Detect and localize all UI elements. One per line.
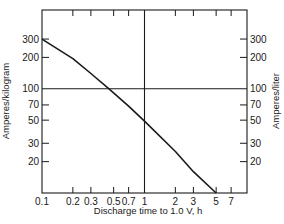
y-tick-label-right: 30 xyxy=(250,138,262,149)
y-tick-label-left: 200 xyxy=(22,52,39,63)
x-tick-label: 5 xyxy=(213,196,219,207)
left-y-axis-title: Amperes/kilogram xyxy=(0,63,11,140)
y-tick-label-right: 70 xyxy=(250,99,262,110)
series-line xyxy=(42,39,216,193)
x-tick-label: 7 xyxy=(228,196,234,207)
x-axis-title: Discharge time to 1.0 V, h xyxy=(94,205,202,216)
x-tick-label: 0.1 xyxy=(35,196,49,207)
y-tick-label-right: 50 xyxy=(250,115,262,126)
right-y-axis-ticks: 20305070100200300 xyxy=(240,34,267,168)
data-series xyxy=(42,39,216,193)
y-tick-label-left: 20 xyxy=(28,156,40,167)
right-y-axis-title: Amperes/liter xyxy=(270,73,281,129)
x-axis-ticks: 0.10.20.30.50.712357 xyxy=(35,10,234,207)
y-tick-label-right: 100 xyxy=(250,83,267,94)
y-tick-label-right: 200 xyxy=(250,52,267,63)
y-tick-label-right: 20 xyxy=(250,156,262,167)
reference-lines xyxy=(42,10,247,193)
left-y-axis-ticks: 20305070100200300 xyxy=(22,34,49,168)
y-tick-label-left: 50 xyxy=(28,115,40,126)
y-tick-label-right: 300 xyxy=(250,34,267,45)
y-tick-label-left: 70 xyxy=(28,99,40,110)
y-tick-label-left: 300 xyxy=(22,34,39,45)
x-tick-label: 0.2 xyxy=(66,196,80,207)
y-tick-label-left: 100 xyxy=(22,83,39,94)
y-tick-label-left: 30 xyxy=(28,138,40,149)
chart: 0.10.20.30.50.712357 20305070100200300 2… xyxy=(0,0,284,224)
